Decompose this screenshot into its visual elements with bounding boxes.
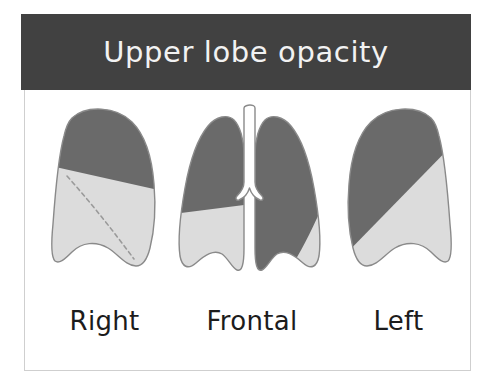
lung-lateral-right-icon [42, 96, 167, 301]
panel-left-lateral [336, 96, 461, 301]
panel-frontal [172, 96, 332, 301]
caption-row: Right Frontal Left [24, 306, 471, 354]
upper-lobe-opacity-figure: Upper lobe opacity [0, 0, 489, 389]
figure-banner: Upper lobe opacity [21, 14, 471, 90]
caption-left: Left [336, 306, 461, 336]
caption-right: Right [42, 306, 167, 336]
panel-right-lateral [42, 96, 167, 301]
caption-frontal: Frontal [172, 306, 332, 336]
lung-lateral-left-icon [336, 96, 461, 301]
page-title: Upper lobe opacity [103, 35, 389, 69]
lung-diagram-row [24, 96, 471, 301]
lungs-frontal-icon [172, 96, 332, 301]
